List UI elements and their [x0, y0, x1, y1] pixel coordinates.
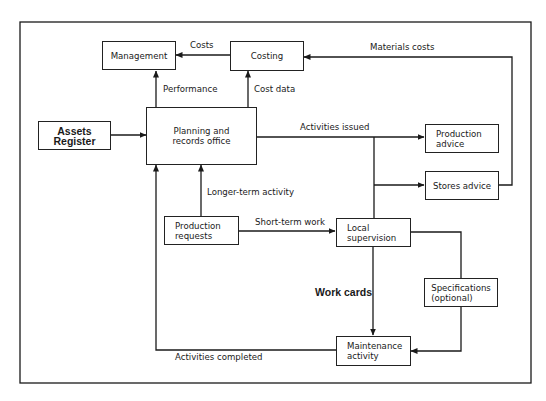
edge-label-work-cards: Work cards [315, 286, 372, 298]
node-label-line: Maintenance [347, 341, 402, 351]
node-costing: Costing [230, 41, 304, 71]
edge-label-short-term-work: Short-term work [255, 217, 325, 227]
node-local-supervision: Localsupervision [336, 218, 411, 247]
node-specifications: Specifications(optional) [424, 278, 498, 307]
node-label-line: Planning and [172, 126, 230, 136]
node-label-line: (optional) [431, 293, 491, 303]
node-label: Management [111, 51, 168, 61]
node-stores-advice: Stores advice [425, 171, 499, 200]
node-label-line: Production [175, 221, 221, 231]
node-production-advice: Productionadvice [425, 124, 499, 153]
node-management: Management [102, 41, 176, 70]
edge-label-costs: Costs [190, 40, 214, 50]
node-label-line: advice [436, 139, 482, 149]
outer-frame [20, 22, 531, 383]
node-label-line: requests [175, 231, 221, 241]
edge-label-activities-completed: Activities completed [175, 352, 263, 362]
node-label-line: Production [436, 129, 482, 139]
node-label-line: Local [347, 223, 396, 233]
node-production-requests: Productionrequests [164, 216, 239, 245]
edge-label-longer-term-activity: Longer-term activity [207, 187, 294, 197]
edge-label-materials-costs: Materials costs [370, 42, 434, 52]
node-label: Costing [251, 51, 283, 61]
edge-label-performance: Performance [163, 84, 217, 94]
node-label: Stores advice [433, 181, 491, 191]
edge-label-cost-data: Cost data [254, 84, 295, 94]
node-label-line: Specifications [431, 283, 491, 293]
node-label-line: activity [347, 351, 402, 361]
node-assets-register: Assets Register [38, 121, 111, 150]
node-planning-office: Planning andrecords office [146, 107, 257, 165]
node-label-line: supervision [347, 233, 396, 243]
node-maintenance-activity: Maintenanceactivity [336, 336, 411, 366]
edge-label-activities-issued: Activities issued [300, 122, 369, 132]
node-label-line: records office [172, 136, 230, 146]
node-label: Assets Register [42, 126, 107, 146]
